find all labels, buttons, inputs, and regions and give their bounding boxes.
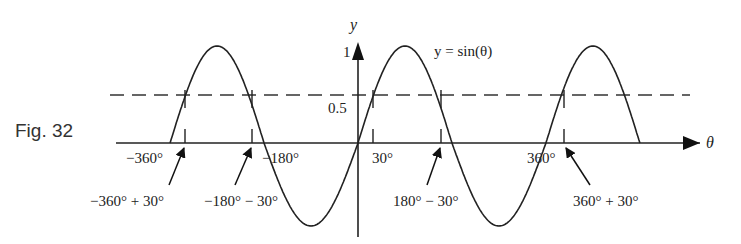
annotation-neg180-minus30: −180° − 30° <box>204 193 278 209</box>
x-tick-neg180: −180° <box>262 150 299 166</box>
y-axis-label: y <box>348 16 358 34</box>
y-axis-arrow-icon <box>352 42 364 60</box>
annotation-180-minus30: 180° − 30° <box>393 193 458 209</box>
x-axis-label: θ <box>706 134 714 151</box>
y-tick-one: 1 <box>343 44 351 60</box>
x-axis-arrow-icon <box>683 136 700 150</box>
equation-label: y = sin(θ) <box>434 43 492 60</box>
x-tick-360: 360° <box>527 150 556 166</box>
y-tick-half: 0.5 <box>328 100 347 116</box>
x-tick-30: 30° <box>372 150 393 166</box>
solution-ticks <box>185 90 564 143</box>
annotation-neg360-plus30: −360° + 30° <box>90 193 164 209</box>
annotation-360-plus30: 360° + 30° <box>573 193 638 209</box>
x-tick-neg360: −360° <box>126 150 163 166</box>
sine-graph: θ y 1 0.5 y = sin(θ) −360° −180° 30° 360… <box>0 0 741 244</box>
